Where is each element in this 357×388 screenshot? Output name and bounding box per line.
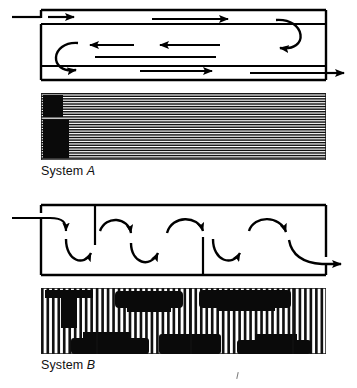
system-a-photo-svg [41,93,326,160]
outlet-pipe-b [289,240,341,264]
system-a-id: A [87,164,95,178]
system-a-svg [0,0,357,90]
vortex-cell-2-b [100,220,131,233]
figure-container: System A [0,0,357,388]
vortex-cell-3-b [131,243,158,262]
system-a-caption: System A [41,162,241,180]
inlet-pipe-b [12,218,66,231]
system-b-streak-photograph [41,288,326,354]
system-a-caption-text: System [41,164,87,178]
system-b-svg [0,195,357,285]
system-a-streak-photograph [41,93,326,160]
system-b-photo-svg [41,288,326,354]
vortex-cell-1-b [66,239,91,261]
vortex-cell-4-b [167,219,203,233]
stray-scan-artifact [236,372,238,379]
vortex-cell-5-b [213,239,240,261]
vessel-wall-b [41,205,326,275]
system-b-caption-text: System [41,358,87,372]
system-b-id: B [87,358,95,372]
system-b-caption: System B [41,356,241,374]
system-b-flow-schematic [0,195,357,285]
vortex-cell-6-b [249,219,286,232]
system-a-flow-schematic [0,0,357,90]
